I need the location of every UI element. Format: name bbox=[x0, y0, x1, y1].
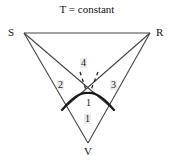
region-label-1-upper: 1 bbox=[85, 98, 92, 108]
ternary-diagram bbox=[0, 0, 174, 164]
tie-line-right-dashed bbox=[91, 72, 98, 90]
vertex-label-r: R bbox=[156, 27, 163, 38]
edge-s-to-v bbox=[24, 33, 88, 143]
figure-container: T = constant S R V 4 2 3 1 1 bbox=[0, 0, 174, 164]
edge-r-to-v bbox=[88, 33, 150, 143]
vertex-label-s: S bbox=[8, 27, 14, 38]
vertex-label-v: V bbox=[84, 146, 92, 157]
line-s-to-right-boundary bbox=[24, 33, 114, 110]
figure-title: T = constant bbox=[0, 4, 174, 15]
region-label-2: 2 bbox=[57, 80, 64, 90]
region-label-3: 3 bbox=[110, 80, 117, 90]
region-label-4: 4 bbox=[80, 58, 87, 68]
region-label-1-lower: 1 bbox=[84, 114, 91, 124]
